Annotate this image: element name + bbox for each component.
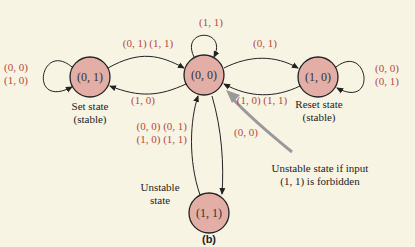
- reset-state-caption: Reset state: [295, 98, 342, 110]
- label-11-to-00-a: (0, 0) (0, 1): [137, 120, 188, 133]
- reset-state-stable: (stable): [303, 111, 336, 124]
- edge-11-to-00: [192, 96, 201, 195]
- label-self-01-a: (0, 0): [4, 61, 28, 74]
- set-state-stable: (stable): [74, 113, 107, 126]
- set-state-caption: Set state: [72, 100, 109, 112]
- edge-self-00: [191, 35, 216, 57]
- label-00-to-10: (0, 1): [253, 37, 277, 50]
- label-00-to-11: (0, 0): [234, 126, 258, 139]
- edge-00-to-11: [212, 96, 223, 194]
- figure-caption: (b): [202, 233, 216, 245]
- edge-01-to-00: [108, 56, 184, 68]
- annotation-line2: (1, 1) is forbidden: [280, 175, 360, 188]
- node-10: (1, 0): [298, 57, 338, 97]
- state-diagram: (0, 1) (0, 0) (1, 0) (1, 1) Set state (s…: [0, 0, 415, 247]
- label-10-to-00: (1, 0) (1, 1): [237, 94, 288, 107]
- svg-text:(0, 0): (0, 0): [191, 68, 217, 82]
- label-self-01-b: (1, 0): [4, 74, 28, 87]
- label-self-10-a: (0, 0): [375, 62, 399, 75]
- unstable-state-caption2: state: [150, 194, 170, 206]
- pointer-arrow-icon: [232, 98, 292, 152]
- edge-self-01: [43, 61, 72, 92]
- label-self-10-b: (0, 1): [375, 75, 399, 88]
- edge-00-to-01: [110, 84, 186, 94]
- label-01-to-00: (0, 1) (1, 1): [123, 37, 174, 50]
- label-00-to-01: (1, 0): [131, 94, 155, 107]
- node-00: (0, 0): [184, 55, 224, 95]
- node-11: (1, 1): [189, 193, 229, 233]
- svg-text:(1, 0): (1, 0): [305, 70, 331, 84]
- unstable-state-caption: Unstable: [140, 181, 179, 193]
- node-01: (0, 1): [70, 57, 110, 97]
- edge-00-to-10: [224, 58, 298, 68]
- label-11-to-00-b: (1, 0) (1, 1): [137, 133, 188, 146]
- edge-self-10: [336, 61, 364, 92]
- svg-text:(0, 1): (0, 1): [77, 70, 103, 84]
- label-self-00: (1, 1): [199, 16, 223, 29]
- annotation-line1: Unstable state if input: [272, 162, 369, 174]
- svg-text:(1, 1): (1, 1): [196, 206, 222, 220]
